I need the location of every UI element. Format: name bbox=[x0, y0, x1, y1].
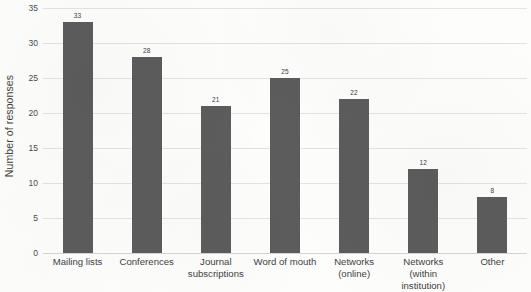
y-axis-tick-label: 30 bbox=[29, 38, 38, 48]
bars: 3328212522128 bbox=[43, 8, 527, 253]
bar[interactable] bbox=[270, 78, 300, 253]
bar[interactable] bbox=[132, 57, 162, 253]
x-axis-category-label: Other bbox=[458, 256, 527, 268]
bar-slot: 28 bbox=[112, 8, 181, 253]
bar-slot: 22 bbox=[320, 8, 389, 253]
bar-value-label: 21 bbox=[212, 96, 220, 103]
plot-area: 05101520253035 3328212522128 bbox=[43, 8, 527, 253]
bar-slot: 25 bbox=[250, 8, 319, 253]
y-axis-title-label: Number of responses bbox=[3, 75, 15, 177]
bar-value-label: 8 bbox=[490, 187, 494, 194]
bar-slot: 33 bbox=[43, 8, 112, 253]
bar[interactable] bbox=[477, 197, 507, 253]
y-axis-tick-label: 15 bbox=[29, 143, 38, 153]
bar-value-label: 22 bbox=[350, 89, 358, 96]
bar[interactable] bbox=[408, 169, 438, 253]
bar-chart: Number of responses 05101520253035 33282… bbox=[0, 0, 531, 292]
bar[interactable] bbox=[339, 99, 369, 253]
bar[interactable] bbox=[201, 106, 231, 253]
y-axis-tick-label: 35 bbox=[29, 3, 38, 13]
y-axis-title: Number of responses bbox=[2, 0, 16, 252]
x-axis-category-label: Conferences bbox=[112, 256, 181, 268]
gridline bbox=[43, 253, 527, 254]
bar-slot: 8 bbox=[458, 8, 527, 253]
y-axis-tick-label: 10 bbox=[29, 178, 38, 188]
x-axis-category-label: Journal subscriptions bbox=[181, 256, 250, 280]
y-axis-tick-label: 25 bbox=[29, 73, 38, 83]
bar-slot: 12 bbox=[389, 8, 458, 253]
bar-value-label: 28 bbox=[143, 47, 151, 54]
bar-value-label: 12 bbox=[419, 159, 427, 166]
y-axis-tick-label: 20 bbox=[29, 108, 38, 118]
y-axis-tick-label: 0 bbox=[33, 248, 38, 258]
y-axis-tick-label: 5 bbox=[33, 213, 38, 223]
x-axis-category-label: Networks (online) bbox=[320, 256, 389, 280]
bar-slot: 21 bbox=[181, 8, 250, 253]
x-axis-category-label: Networks (within institution) bbox=[389, 256, 458, 292]
bar-value-label: 33 bbox=[74, 12, 82, 19]
x-axis-labels: Mailing listsConferencesJournal subscrip… bbox=[43, 256, 527, 292]
bar-value-label: 25 bbox=[281, 68, 289, 75]
bar[interactable] bbox=[63, 22, 93, 253]
x-axis-category-label: Mailing lists bbox=[43, 256, 112, 268]
x-axis-category-label: Word of mouth bbox=[250, 256, 319, 268]
